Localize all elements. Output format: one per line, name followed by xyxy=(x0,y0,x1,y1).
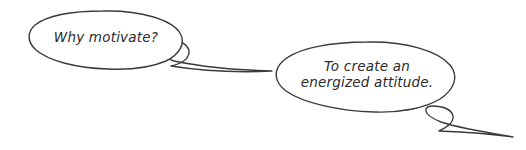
answer-bubble-text: To create anenergized attitude. xyxy=(283,58,451,91)
answer-bubble-tail xyxy=(426,106,513,137)
answer-bubble-line-1: To create an xyxy=(324,58,410,74)
answer-bubble-line-2: energized attitude. xyxy=(301,74,434,90)
question-bubble-text: Why motivate? xyxy=(40,29,172,45)
speech-bubble-diagram: Why motivate? To create anenergized atti… xyxy=(0,0,526,150)
